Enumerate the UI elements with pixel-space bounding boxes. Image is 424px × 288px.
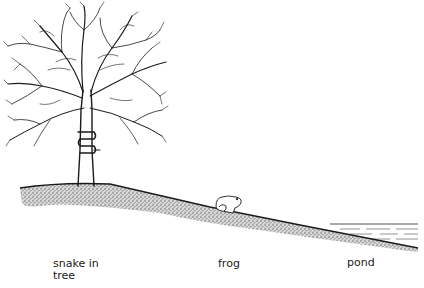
snake-icon <box>78 132 100 153</box>
pond-label: pond <box>347 257 375 269</box>
snake-in-tree-label: snake in tree <box>53 258 113 282</box>
tree-icon <box>4 2 168 186</box>
diagram-scene <box>0 0 424 288</box>
frog-icon <box>216 196 241 213</box>
frog-label: frog <box>218 258 240 270</box>
hill-slope-icon <box>20 184 418 253</box>
